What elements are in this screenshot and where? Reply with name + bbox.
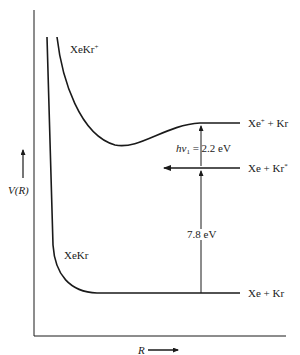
gap-value: 7.8 eV [187, 228, 216, 240]
y-axis-label-text: V(R) [8, 184, 29, 196]
y-axis-label: V(R) [8, 185, 29, 196]
label-xekr-main: XeKr [64, 249, 88, 261]
x-axis-label-text: R [138, 344, 145, 355]
label-xekr-plus-main: XeKr [70, 43, 94, 55]
potential-energy-diagram [0, 0, 300, 355]
photon-value: = 2.2 eV [190, 142, 231, 154]
asymptote-middle: Xe + Kr* [248, 163, 288, 174]
label-xekr: XeKr [64, 250, 88, 261]
asymptote-upper: Xe+ + Kr [248, 118, 288, 129]
asymptote-upper-kr: + Kr [265, 117, 288, 129]
asymptote-lower-text: Xe + Kr [248, 287, 284, 299]
photon-energy-label: hν1 = 2.2 eV [176, 143, 231, 156]
asymptote-middle-sup: * [284, 162, 288, 170]
x-axis-label: R [138, 345, 145, 355]
asymptote-middle-text: Xe + Kr [248, 162, 284, 174]
asymptote-upper-xe: Xe [248, 117, 261, 129]
gap-energy-label: 7.8 eV [186, 229, 217, 240]
label-xekr-plus-sup: + [94, 43, 98, 51]
label-xekr-plus: XeKr+ [70, 44, 98, 55]
asymptote-lower: Xe + Kr [248, 288, 284, 299]
